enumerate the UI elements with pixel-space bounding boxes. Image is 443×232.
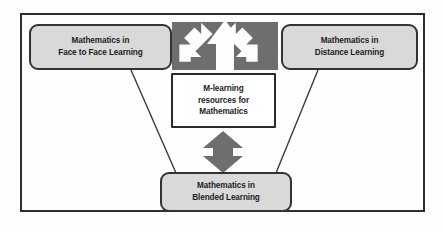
node-mathematics-face-to-face[interactable]: Mathematics in Face to Face Learning <box>29 24 172 70</box>
node-mlearning-line2: resources for <box>198 95 249 107</box>
arrow-fan-up-icon <box>166 20 286 78</box>
node-distance-text: Mathematics in Distance Learning <box>315 35 384 59</box>
node-blended-line1: Mathematics in <box>192 180 260 192</box>
node-mlearning-line1: M-learning <box>198 83 249 95</box>
node-face-to-face-line1: Mathematics in <box>58 35 142 47</box>
node-distance-line2: Distance Learning <box>315 47 384 59</box>
node-blended-text: Mathematics in Blended Learning <box>192 180 260 204</box>
node-face-to-face-line2: Face to Face Learning <box>58 47 142 59</box>
connector-distance-to-blended <box>276 70 318 173</box>
connector-face-to-face-to-blended <box>131 70 176 173</box>
node-blended-line2: Blended Learning <box>192 192 260 204</box>
node-mlearning-line3: Mathematics <box>198 106 249 118</box>
diagram-screenshot: Mathematics in Face to Face Learning Mat… <box>0 0 443 232</box>
node-mlearning-resources[interactable]: M-learning resources for Mathematics <box>171 73 276 128</box>
node-mlearning-text: M-learning resources for Mathematics <box>198 83 249 119</box>
arrow-double-vertical-icon <box>203 131 243 173</box>
node-mathematics-distance[interactable]: Mathematics in Distance Learning <box>281 24 418 70</box>
node-face-to-face-text: Mathematics in Face to Face Learning <box>58 35 142 59</box>
node-distance-line1: Mathematics in <box>315 35 384 47</box>
node-mathematics-blended[interactable]: Mathematics in Blended Learning <box>160 172 292 212</box>
